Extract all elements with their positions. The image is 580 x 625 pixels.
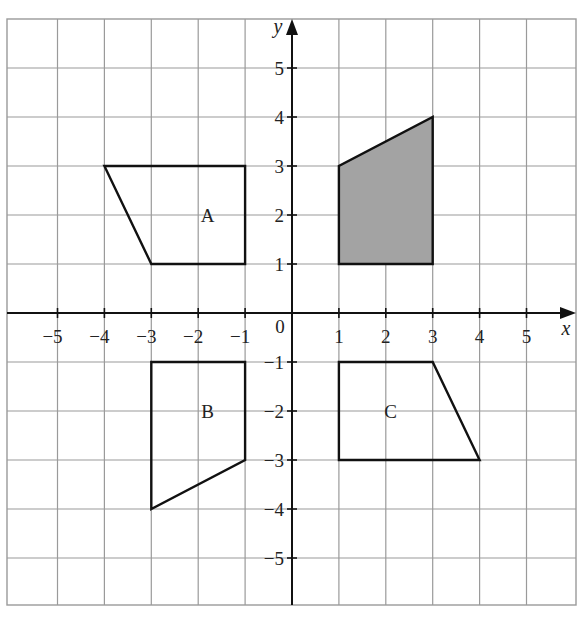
y-axis-arrow-icon [286,19,298,35]
coordinate-grid-figure: ABC−5−4−3−2−11234554321−1−2−3−4−5xy0 [0,0,580,625]
x-axis-label: x [561,317,571,339]
y-tick-label: −5 [264,548,284,569]
axis-labels: ABC−5−4−3−2−11234554321−1−2−3−4−5xy0 [42,15,570,569]
shape-label-c: C [384,401,397,422]
x-tick-label: 1 [334,326,344,347]
shape-label-b: B [201,401,214,422]
y-tick-label: −3 [264,450,284,471]
origin-label: 0 [275,316,285,337]
shape-label-a: A [201,205,215,226]
axes [7,19,576,605]
y-tick-label: 2 [275,205,285,226]
y-tick-label: −4 [264,499,285,520]
y-tick-label: 1 [275,254,285,275]
x-tick-label: −5 [42,326,62,347]
x-tick-label: −2 [183,326,203,347]
coordinate-plane: ABC−5−4−3−2−11234554321−1−2−3−4−5xy0 [0,0,580,625]
x-tick-label: 2 [381,326,391,347]
y-tick-label: 5 [275,58,285,79]
y-tick-label: −1 [264,352,284,373]
y-tick-label: −2 [264,401,284,422]
y-tick-label: 4 [275,107,285,128]
y-tick-label: 3 [275,156,285,177]
x-tick-label: −1 [230,326,250,347]
x-tick-label: −3 [136,326,156,347]
x-tick-label: 4 [475,326,485,347]
x-tick-label: −4 [89,326,110,347]
x-tick-label: 5 [522,326,532,347]
y-axis-label: y [272,15,283,38]
x-tick-label: 3 [428,326,438,347]
